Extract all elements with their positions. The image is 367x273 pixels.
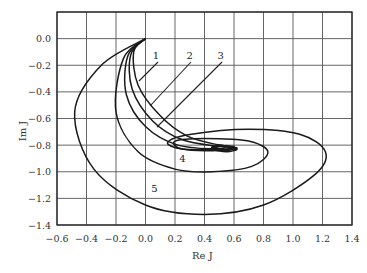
curve-label-5: 5 bbox=[151, 183, 157, 194]
x-tick-label: 0.0 bbox=[138, 233, 153, 244]
y-tick-label: −1.4 bbox=[28, 220, 51, 231]
x-tick-label: 0.8 bbox=[256, 233, 271, 244]
chart: −0.6−0.4−0.20.00.20.40.60.81.01.21.4 0.0… bbox=[0, 0, 367, 273]
x-axis-title: Re J bbox=[192, 250, 213, 261]
y-tick-label: −1.0 bbox=[28, 166, 51, 177]
curve-label-4: 4 bbox=[179, 153, 185, 164]
x-tick-label: −0.2 bbox=[104, 233, 127, 244]
y-tick-label: −0.2 bbox=[28, 60, 51, 71]
x-tick-label: 1.0 bbox=[285, 233, 300, 244]
y-axis-ticks: 0.0−0.2−0.4−0.6−0.8−1.0−1.2−1.4 bbox=[28, 33, 51, 230]
x-tick-label: 0.4 bbox=[197, 233, 212, 244]
x-tick-label: 1.4 bbox=[344, 233, 359, 244]
gridlines bbox=[57, 12, 352, 225]
x-tick-label: 0.2 bbox=[167, 233, 182, 244]
label-leader-lines bbox=[139, 62, 222, 127]
x-tick-label: 0.6 bbox=[226, 233, 241, 244]
x-tick-label: −0.4 bbox=[75, 233, 98, 244]
y-tick-label: 0.0 bbox=[36, 33, 51, 44]
y-tick-label: −0.6 bbox=[28, 113, 51, 124]
y-tick-label: −1.2 bbox=[28, 193, 51, 204]
curve-label-2: 2 bbox=[187, 50, 193, 61]
y-axis-title: Im J bbox=[17, 121, 28, 142]
curve-label-1: 1 bbox=[153, 50, 159, 61]
x-tick-label: −0.6 bbox=[45, 233, 68, 244]
y-tick-label: −0.4 bbox=[28, 86, 51, 97]
curve-label-3: 3 bbox=[218, 50, 224, 61]
y-tick-label: −0.8 bbox=[28, 140, 51, 151]
x-tick-label: 1.2 bbox=[315, 233, 330, 244]
x-axis-ticks: −0.6−0.4−0.20.00.20.40.60.81.01.21.4 bbox=[45, 233, 359, 244]
